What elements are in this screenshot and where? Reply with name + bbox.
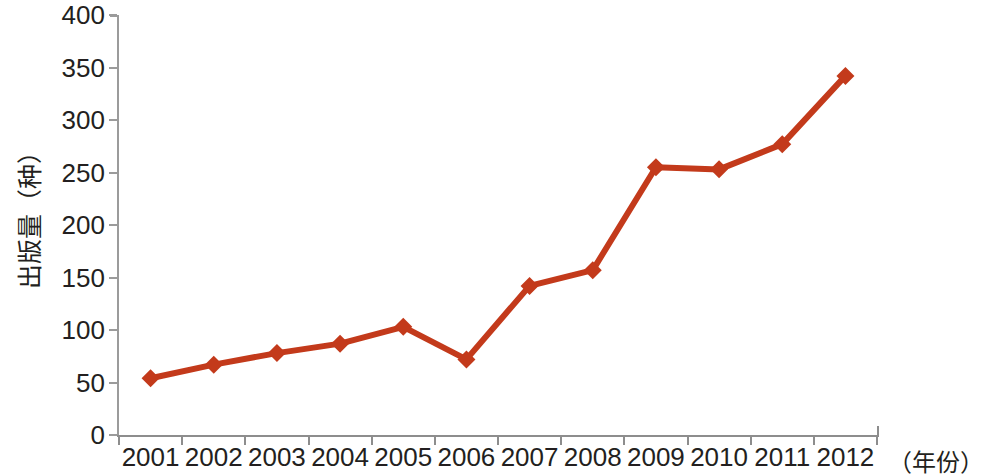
- data-point-marker: [331, 335, 349, 353]
- series-markers: [142, 67, 855, 387]
- line-chart: 出版量（种） 050100150200250300350400 20012002…: [0, 0, 983, 475]
- data-point-marker: [205, 356, 223, 374]
- data-point-marker: [142, 369, 160, 387]
- plot-area: [0, 0, 983, 475]
- data-point-marker: [268, 344, 286, 362]
- data-point-marker: [710, 160, 728, 178]
- series-line: [151, 76, 846, 378]
